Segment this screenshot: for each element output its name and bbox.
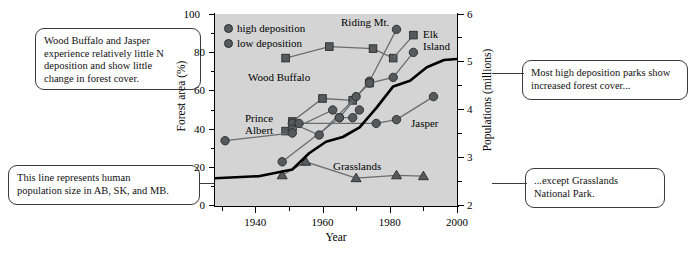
xtick-1990 — [423, 207, 424, 211]
legend-label-high-deposition: high deposition — [237, 22, 305, 34]
xlabel-1940: 1940 — [235, 216, 275, 228]
series-elk-island-circles — [288, 48, 417, 139]
figure-root: Wood Buffalo and Jasper experience relat… — [0, 0, 695, 256]
xlabel-2000: 2000 — [437, 216, 477, 228]
y-axis-title: Forest area (%) — [175, 61, 187, 132]
leader-line-high-deposition — [492, 73, 524, 74]
xtick-1930 — [222, 207, 223, 211]
ytick-10 — [211, 186, 215, 187]
ytick-60 — [209, 90, 215, 91]
xlabel-1960: 1960 — [303, 216, 343, 228]
label-grasslands: Grasslands — [333, 160, 381, 172]
y2tick-2.5 — [458, 181, 462, 182]
ylabel-80: 80 — [179, 46, 205, 58]
callout-grasslands: ...except Grasslands National Park. — [525, 168, 665, 208]
label-prince-albert: Prince Albert — [245, 112, 273, 136]
label-elk-island-line1: Elk — [423, 28, 450, 40]
legend-item-high-deposition: high deposition — [224, 22, 305, 34]
xtick-2000 — [457, 207, 458, 213]
ylabel-100: 100 — [174, 8, 200, 20]
xlabel-1980: 1980 — [370, 216, 410, 228]
label-elk-island: Elk Island — [423, 28, 450, 52]
xtick-1970 — [356, 207, 357, 211]
xtick-1940 — [255, 207, 256, 213]
ytick-80 — [209, 52, 215, 53]
legend-item-low-deposition: low deposition — [224, 37, 302, 49]
callout-grasslands-line1: ...except Grasslands — [534, 175, 656, 188]
legend-marker-low-deposition-icon — [224, 39, 233, 48]
y2tick-3.5 — [458, 133, 462, 134]
callout-population-line: This line represents human population si… — [8, 165, 200, 205]
ytick-30 — [211, 148, 215, 149]
y2tick-5.5 — [458, 37, 462, 38]
ytick-70 — [211, 71, 215, 72]
callout-high-deposition-line1: Most high deposition parks show — [531, 67, 679, 80]
xtick-1950 — [289, 207, 290, 211]
ylabel-20: 20 — [179, 161, 205, 173]
ytick-40 — [209, 129, 215, 130]
y2tick-2 — [458, 205, 464, 206]
callout-wood-buffalo-line3: deposition and show little — [44, 60, 192, 73]
callout-high-deposition-line2: increased forest cover... — [531, 80, 679, 93]
callout-wood-buffalo-line4: change in forest cover. — [44, 73, 192, 86]
xtick-1960 — [323, 207, 324, 213]
ylabel-0: 0 — [179, 199, 205, 211]
label-elk-island-line2: Island — [423, 40, 450, 52]
leader-line-grasslands — [492, 183, 527, 184]
y2tick-5 — [458, 61, 464, 62]
label-jasper: Jasper — [411, 117, 439, 129]
ytick-20 — [209, 167, 215, 168]
label-wood-buffalo: Wood Buffalo — [248, 71, 310, 83]
ytick-90 — [211, 33, 215, 34]
callout-population-line1: This line represents human — [17, 172, 191, 185]
y2tick-4.5 — [458, 85, 462, 86]
label-riding-mt: Riding Mt. — [341, 16, 389, 28]
xtick-1980 — [390, 207, 391, 213]
callout-wood-buffalo-line2: experience relatively little N — [44, 48, 192, 61]
ytick-50 — [211, 110, 215, 111]
axis-spine-bottom — [214, 206, 459, 207]
x-axis-title: Year — [325, 231, 346, 243]
y2label-2: 2 — [467, 199, 487, 211]
callout-population-line2: population size in AB, SK, and MB. — [17, 185, 191, 198]
legend-marker-high-deposition-icon — [224, 24, 233, 33]
ytick-100 — [209, 14, 215, 15]
y2tick-3 — [458, 157, 464, 158]
legend-label-low-deposition: low deposition — [237, 37, 302, 49]
callout-high-deposition: Most high deposition parks show increase… — [522, 60, 688, 100]
y2tick-6 — [458, 14, 464, 15]
y2-axis-title: Populations (millions) — [481, 49, 493, 152]
y2label-6: 6 — [467, 8, 487, 20]
y2label-3: 3 — [467, 151, 487, 163]
callout-grasslands-line2: National Park. — [534, 188, 656, 201]
label-prince-albert-line1: Prince — [245, 112, 273, 124]
chart-plot-area: 0 20 40 60 80 100 2 3 4 5 6 1940 1960 19… — [215, 14, 457, 206]
callout-wood-buffalo-line1: Wood Buffalo and Jasper — [44, 35, 192, 48]
label-prince-albert-line2: Albert — [245, 124, 273, 136]
y2tick-4 — [458, 109, 464, 110]
ytick-0 — [209, 205, 215, 206]
